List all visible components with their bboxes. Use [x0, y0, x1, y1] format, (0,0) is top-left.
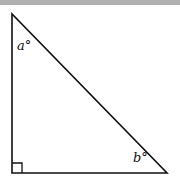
angle-b-label: b° [133, 150, 148, 165]
triangle-diagram: a° b° [0, 0, 180, 183]
angle-a-label: a° [17, 38, 31, 53]
right-angle-marker [12, 163, 22, 173]
